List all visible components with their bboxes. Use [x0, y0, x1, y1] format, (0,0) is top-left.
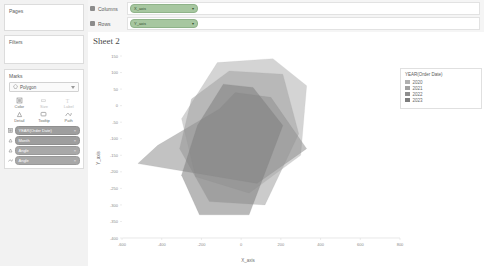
marks-pill-row: Angle × [8, 146, 80, 155]
columns-pill-label: X_axis [134, 6, 146, 11]
chevron-down-icon[interactable]: ▾ [192, 21, 194, 26]
tableau-worksheet-window: Pages Filters Marks Polygon [0, 0, 484, 266]
chevron-down-icon[interactable]: ▾ [192, 6, 194, 11]
columns-pill[interactable]: X_axis ▾ [130, 4, 198, 14]
rows-pill[interactable]: Y_axis ▾ [130, 19, 198, 29]
path-icon [8, 157, 13, 163]
pill-remove-icon[interactable]: × [74, 158, 76, 163]
pill-remove-icon[interactable]: × [74, 148, 76, 153]
filters-card: Filters [4, 35, 84, 64]
marks-prop-path[interactable]: Path [56, 109, 81, 123]
rows-icon [90, 21, 95, 26]
filters-shelf-dropzone[interactable] [5, 47, 83, 63]
marks-pill-row: Month × [8, 136, 80, 145]
rows-shelf: Rows Y_axis ▾ [90, 17, 484, 30]
polygon-icon [13, 84, 18, 90]
x-tick-label: -600 [118, 242, 127, 247]
marks-pill-angle-path-label: Angle [19, 158, 29, 163]
marks-prop-detail[interactable]: Detail [7, 109, 32, 123]
color-legend-swatch [405, 92, 410, 97]
path-icon [65, 111, 73, 118]
y-tick-label: -350 [110, 219, 119, 224]
color-legend-items: 2020202120222023 [405, 79, 477, 103]
tooltip-icon [40, 111, 48, 118]
y-tick-label: -400 [110, 236, 119, 241]
pill-remove-icon[interactable]: × [74, 138, 76, 143]
color-icon [15, 97, 23, 104]
rows-shelf-label: Rows [98, 21, 124, 27]
x-tick-label: 200 [278, 242, 285, 247]
color-legend-swatch [405, 86, 410, 91]
marks-pill-color[interactable]: YEAR(Order Date) × [15, 126, 81, 135]
color-legend-item-label: 2022 [413, 92, 423, 97]
y-tick-label: -50 [112, 120, 119, 125]
pages-card: Pages [4, 4, 84, 31]
x-tick-label: 600 [357, 242, 364, 247]
columns-shelf-label: Columns [98, 6, 124, 12]
detail-icon [8, 137, 13, 143]
x-tick-label: 0 [240, 242, 243, 247]
y-tick-label: -300 [110, 203, 119, 208]
color-legend-title: YEAR(Order Date) [405, 72, 477, 77]
polygon-chart-svg: 150100500-50-100-150-200-250-300-350-400… [88, 50, 408, 266]
y-tick-label: -200 [110, 169, 119, 174]
columns-shelf: Columns X_axis ▾ [90, 2, 484, 15]
chevron-down-icon [71, 86, 75, 89]
x-tick-label: -200 [197, 242, 206, 247]
x-tick-label: 400 [317, 242, 324, 247]
y-tick-label: 150 [111, 54, 118, 59]
svg-text:T: T [66, 98, 70, 104]
worksheet-canvas: Sheet 2 150100500-50-100-150-200-250-300… [88, 32, 484, 266]
marks-prop-size[interactable]: Size [32, 95, 57, 109]
marks-pill-row: Angle × [8, 156, 80, 165]
polygon-chart[interactable]: 150100500-50-100-150-200-250-300-350-400… [88, 50, 408, 266]
color-legend-item-label: 2023 [413, 98, 423, 103]
mark-type-selector[interactable]: Polygon [9, 82, 79, 92]
color-legend-item-label: 2021 [413, 86, 423, 91]
y-tick-label: -100 [110, 136, 119, 141]
pages-shelf-dropzone[interactable] [5, 16, 83, 30]
y-axis-label: Y_axis [96, 151, 101, 165]
color-legend-icon [8, 127, 13, 133]
marks-card: Marks Polygon Color [4, 69, 84, 169]
marks-prop-path-label: Path [65, 119, 73, 123]
marks-prop-tooltip[interactable]: Tooltip [32, 109, 57, 123]
marks-pill-angle-path[interactable]: Angle × [15, 156, 81, 165]
marks-pill-angle-detail-label: Angle [19, 148, 29, 153]
detail-icon [15, 111, 23, 118]
color-legend-swatch [405, 80, 410, 85]
columns-shelf-dropzone[interactable]: X_axis ▾ [127, 2, 480, 15]
x-tick-label: 800 [397, 242, 404, 247]
marks-prop-detail-label: Detail [14, 119, 24, 123]
left-panel: Pages Filters Marks Polygon [0, 0, 89, 266]
marks-card-title: Marks [5, 70, 83, 81]
y-tick-label: 100 [111, 70, 118, 75]
marks-pill-detail[interactable]: Month × [15, 136, 81, 145]
shelf-area: Columns X_axis ▾ Rows Y_axis ▾ [88, 0, 484, 33]
marks-prop-label[interactable]: T Label [56, 95, 81, 109]
pages-card-title: Pages [5, 5, 83, 16]
marks-pill-angle-detail[interactable]: Angle × [15, 146, 81, 155]
y-tick-label: 0 [116, 103, 119, 108]
marks-pill-row: YEAR(Order Date) × [8, 126, 80, 135]
x-axis-label: X_axis [88, 258, 408, 263]
marks-prop-color[interactable]: Color [7, 95, 32, 109]
marks-pill-detail-label: Month [19, 138, 30, 143]
rows-shelf-dropzone[interactable]: Y_axis ▾ [127, 17, 480, 30]
size-icon [40, 97, 48, 104]
color-legend: YEAR(Order Date) 2020202120222023 [400, 68, 482, 109]
y-tick-label: -150 [110, 153, 119, 158]
mark-type-label: Polygon [20, 85, 36, 90]
filters-card-title: Filters [5, 36, 83, 47]
pill-remove-icon[interactable]: × [74, 128, 76, 133]
marks-pill-list: YEAR(Order Date) × Month × [5, 125, 83, 168]
y-tick-label: 50 [114, 87, 119, 92]
marks-pill-color-label: YEAR(Order Date) [19, 128, 52, 133]
color-legend-item[interactable]: 2023 [405, 97, 477, 103]
detail-icon [8, 147, 13, 153]
rows-pill-label: Y_axis [134, 21, 146, 26]
x-tick-label: -400 [158, 242, 167, 247]
sheet-title: Sheet 2 [88, 32, 484, 46]
y-tick-label: -250 [110, 186, 119, 191]
columns-icon [90, 6, 95, 11]
